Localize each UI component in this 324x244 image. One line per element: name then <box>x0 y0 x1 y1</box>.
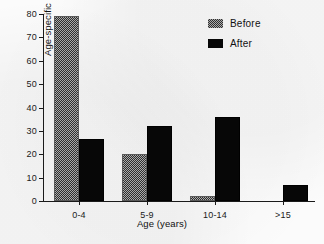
y-tick-label-70: 70 <box>27 32 37 42</box>
y-tick-60 <box>39 61 43 62</box>
x-tick-5-9 <box>147 201 148 205</box>
x-axis-line <box>43 201 315 202</box>
x-tick->15 <box>283 201 284 205</box>
y-tick-label-80: 80 <box>27 9 37 19</box>
y-tick-50 <box>39 84 43 85</box>
y-tick-40 <box>39 108 43 109</box>
y-tick-label-30: 30 <box>27 126 37 136</box>
bar-chart: 01020304050607080 0-45-910-14>15 Age-spe… <box>0 0 324 244</box>
x-axis-title: Age (years) <box>0 218 324 229</box>
legend-label-before: Before <box>230 18 261 29</box>
bar-after-10-14 <box>215 117 240 201</box>
bar-after-0-4 <box>79 139 104 201</box>
y-tick-label-20: 20 <box>27 149 37 159</box>
x-tick-0-4 <box>79 201 80 205</box>
legend-label-after: After <box>230 38 252 49</box>
y-tick-label-60: 60 <box>27 56 37 66</box>
chart-legend: BeforeAfter <box>208 18 261 49</box>
legend-item-after: After <box>208 38 261 49</box>
plot-area: 01020304050607080 0-45-910-14>15 Age-spe… <box>43 14 315 201</box>
legend-item-before: Before <box>208 18 261 29</box>
y-tick-label-0: 0 <box>32 196 37 206</box>
bar-before-0-4 <box>54 16 79 201</box>
y-tick-0 <box>39 201 43 202</box>
bar-before-10-14 <box>190 196 215 201</box>
y-tick-label-40: 40 <box>27 103 37 113</box>
y-tick-label-10: 10 <box>27 173 37 183</box>
bar-after-5-9 <box>147 126 172 201</box>
y-tick-30 <box>39 131 43 132</box>
legend-swatch-before <box>208 19 223 28</box>
y-tick-10 <box>39 178 43 179</box>
y-tick-label-50: 50 <box>27 79 37 89</box>
x-tick-10-14 <box>215 201 216 205</box>
y-axis-title: Age-specific incidence (%) <box>42 0 53 56</box>
y-tick-20 <box>39 154 43 155</box>
legend-swatch-after <box>208 39 223 48</box>
bar-before-5-9 <box>122 154 147 201</box>
bar-after->15 <box>283 185 308 201</box>
